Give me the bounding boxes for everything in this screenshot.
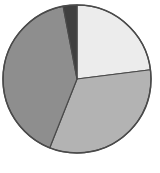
pie-slice-1 (77, 5, 150, 79)
pie-chart (0, 0, 160, 173)
